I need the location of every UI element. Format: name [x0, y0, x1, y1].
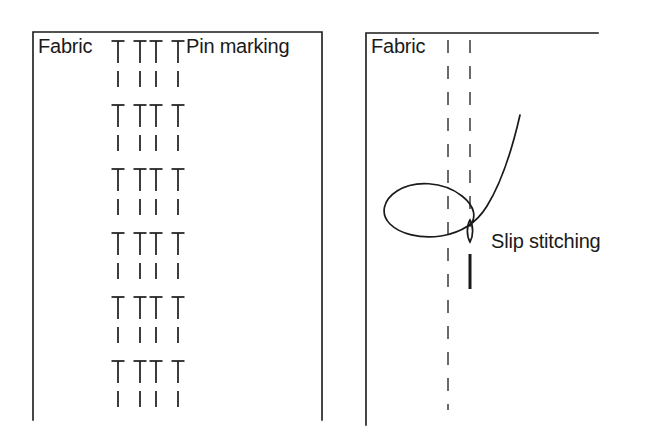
pin-mark — [150, 233, 163, 279]
pin-mark — [134, 105, 147, 151]
pin-marking-group — [112, 41, 185, 407]
right-panel-fabric-outline — [366, 33, 598, 425]
diagram-svg — [0, 0, 657, 446]
pin-mark — [172, 169, 185, 215]
pin-mark — [172, 233, 185, 279]
pin-mark — [172, 361, 185, 407]
pin-mark — [134, 169, 147, 215]
pin-row — [112, 105, 185, 151]
pin-mark — [150, 41, 163, 87]
pin-mark — [134, 297, 147, 343]
pin-row — [112, 169, 185, 215]
pin-mark — [172, 41, 185, 87]
pin-mark — [112, 105, 125, 151]
right-panel-fabric-label: Fabric — [371, 36, 425, 56]
pin-mark — [134, 41, 147, 87]
pin-mark — [172, 297, 185, 343]
pin-mark — [112, 297, 125, 343]
pin-row — [112, 233, 185, 279]
pin-mark — [112, 41, 125, 87]
left-panel-fabric-label: Fabric — [38, 36, 92, 56]
thread-loop — [384, 115, 520, 237]
pin-mark — [150, 169, 163, 215]
pin-mark — [150, 105, 163, 151]
diagram-root: Fabric Pin marking Fabric Slip stitching — [0, 0, 657, 446]
pin-marking-label: Pin marking — [186, 36, 289, 56]
pin-mark — [150, 361, 163, 407]
pin-mark — [172, 105, 185, 151]
slip-stitching-label: Slip stitching — [491, 231, 600, 251]
needle — [467, 220, 472, 289]
fold-lines-group — [448, 40, 470, 410]
pin-mark — [134, 361, 147, 407]
pin-mark — [112, 361, 125, 407]
pin-mark — [150, 297, 163, 343]
pin-mark — [112, 233, 125, 279]
pin-row — [112, 361, 185, 407]
needle-eye — [467, 220, 472, 242]
pin-mark — [112, 169, 125, 215]
pin-row — [112, 41, 185, 87]
pin-row — [112, 297, 185, 343]
pin-mark — [134, 233, 147, 279]
